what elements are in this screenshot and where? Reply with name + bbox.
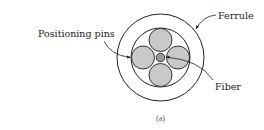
- pin-top: [149, 29, 172, 52]
- fiber-core: [156, 53, 165, 62]
- pin-left: [132, 46, 155, 69]
- fiber-label: Fiber: [215, 81, 241, 92]
- pin-bottom: [149, 64, 172, 87]
- figure-caption: (a): [156, 114, 165, 123]
- ferrule-label: Ferrule: [218, 10, 254, 21]
- ferrule-leader-arrow: [196, 15, 216, 29]
- ferrule-cross-section-diagram: Ferrule Positioning pins Fiber (a): [0, 0, 264, 130]
- positioning-pins-label: Positioning pins: [38, 28, 115, 39]
